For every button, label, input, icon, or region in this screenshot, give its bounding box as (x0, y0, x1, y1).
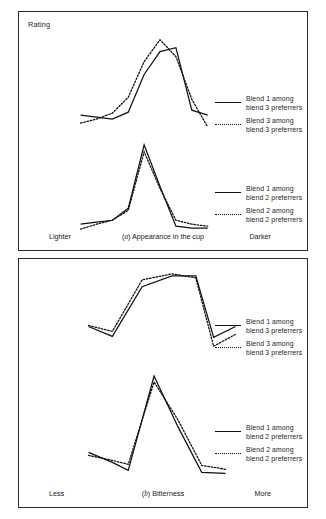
legend-swatch-dotted-icon (215, 124, 241, 125)
legend-label-line1: Blend 1 among (246, 94, 302, 103)
panel-b-caption: Less (b) Bitterness More (19, 489, 307, 501)
legend-label-line1: Blend 1 among (246, 184, 302, 193)
legend-entry: Blend 1 among blend 2 preferrers (215, 423, 326, 442)
legend-entry: Blend 2 among blend 2 preferrers (215, 445, 326, 464)
legend-label-line1: Blend 2 among (246, 206, 302, 215)
legend-label-line2: blend 2 preferrers (246, 454, 302, 463)
legend-swatch-dotted-icon (215, 453, 241, 454)
chart-b-bottom (89, 376, 226, 473)
legend-entry: Blend 3 among blend 3 preferrers (215, 339, 326, 358)
legend-label-line1: Blend 2 among (246, 445, 302, 454)
legend-entry: Blend 1 among blend 3 preferrers (215, 94, 326, 113)
axis-label-left: Less (49, 489, 64, 498)
panel-appearance: Rating Blend 1 among blend 3 preferrers (18, 11, 308, 251)
legend-entry: Blend 2 among blend 2 preferrers (215, 206, 326, 225)
chart-a-top (81, 40, 208, 127)
panel-b-plot-area (19, 259, 307, 507)
series-blend2-among-blend2-dotted (89, 382, 226, 469)
legend-swatch-solid-icon (215, 431, 241, 432)
legend-blend2-panel-a: Blend 1 among blend 2 preferrers Blend 2… (215, 184, 326, 228)
legend-label-line2: blend 3 preferrers (246, 125, 302, 134)
legend-label-line1: Blend 1 among (246, 423, 302, 432)
panel-a-caption: Lighter (a) Appearance in the cup Darker (19, 232, 307, 244)
legend-label-line2: blend 2 preferrers (246, 193, 302, 202)
series-blend2-among-blend2-dotted (81, 152, 208, 229)
panel-bitterness: Blend 1 among blend 3 preferrers Blend 3… (18, 258, 308, 508)
legend-label-line1: Blend 3 among (246, 116, 302, 125)
legend-label-line2: blend 3 preferrers (246, 348, 302, 357)
legend-entry: Blend 1 among blend 2 preferrers (215, 184, 326, 203)
chart-a-bottom (81, 145, 208, 229)
legend-label-line2: blend 3 preferrers (246, 103, 302, 112)
legend-label-line1: Blend 1 among (246, 317, 302, 326)
series-blend1-among-blend2-solid (81, 145, 208, 228)
legend-swatch-solid-icon (215, 325, 241, 326)
panel-a-title: (a) Appearance in the cup (122, 232, 204, 241)
axis-label-right: More (255, 489, 271, 498)
legend-blend2-panel-b: Blend 1 among blend 2 preferrers Blend 2… (215, 423, 326, 467)
series-blend3-among-blend3-dotted (81, 40, 208, 127)
axis-label-left: Lighter (49, 232, 71, 241)
chart-b-top (89, 274, 236, 346)
series-blend1-among-blend2-solid (89, 376, 226, 473)
legend-swatch-dotted-icon (215, 347, 241, 348)
legend-swatch-solid-icon (215, 192, 241, 193)
legend-swatch-dotted-icon (215, 214, 241, 215)
legend-label-line1: Blend 3 among (246, 339, 302, 348)
legend-blend3-panel-a: Blend 1 among blend 3 preferrers Blend 3… (215, 94, 326, 138)
legend-label-line2: blend 2 preferrers (246, 215, 302, 224)
legend-label-line2: blend 2 preferrers (246, 432, 302, 441)
legend-swatch-solid-icon (215, 102, 241, 103)
panel-b-title: (b) Bitterness (142, 489, 184, 498)
legend-label-line2: blend 3 preferrers (246, 326, 302, 335)
legend-entry: Blend 1 among blend 3 preferrers (215, 317, 326, 336)
axis-label-right: Darker (249, 232, 271, 241)
figure-container: Rating Blend 1 among blend 3 preferrers (0, 0, 326, 519)
legend-blend3-panel-b: Blend 1 among blend 3 preferrers Blend 3… (215, 317, 326, 361)
legend-entry: Blend 3 among blend 3 preferrers (215, 116, 326, 135)
series-blend1-among-blend3-solid (81, 48, 208, 119)
series-blend1-among-blend3-solid (89, 276, 236, 338)
